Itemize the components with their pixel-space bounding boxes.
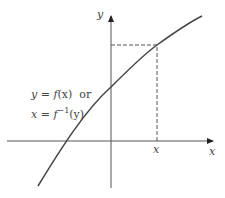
function-curve [38, 16, 202, 186]
dashed-guide-lines [111, 45, 157, 141]
x-value-marker-label: x [153, 144, 159, 155]
equation-line-1: y = f(x) or [31, 89, 91, 100]
function-inverse-diagram: y x x y = f(x) or x = f−1(y) [0, 0, 225, 198]
y-axis-label: y [97, 9, 103, 20]
equation-line-2: x = f−1(y) [31, 107, 84, 120]
x-axis-label: x [209, 146, 215, 157]
